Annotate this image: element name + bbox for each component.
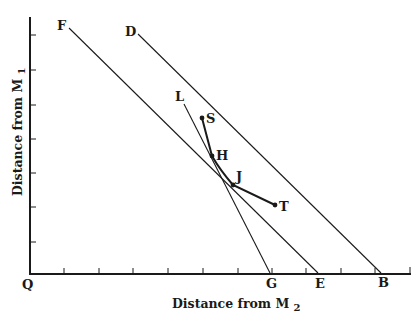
x-axis-ticks [64,267,410,274]
label-q: Q [22,277,33,292]
y-axis-label: Distance from M [10,79,25,196]
label-d: D [125,24,136,39]
point-s [200,116,205,121]
label-j: J [235,169,242,184]
point-t [273,203,278,208]
label-b: B [378,275,389,290]
line-lg [184,104,270,273]
label-t: T [279,199,289,214]
svg-text:Distance from M 2: Distance from M 2 [172,296,301,313]
isodapane-diagram: F D L S H J T G E B Q Distance from M 2 … [0,0,418,318]
line-db [138,34,381,273]
point-labels: F D L S H J T G E B Q [22,18,389,292]
label-f: F [57,18,67,33]
label-g: G [266,276,277,291]
x-axis-label-subscript: 2 [294,302,301,313]
label-s: S [206,111,215,126]
point-j [231,183,236,188]
label-h: H [216,148,228,163]
axes [29,17,411,275]
y-axis-label-subscript: 1 [16,67,27,74]
point-h [210,154,215,159]
x-axis-label: Distance from M [172,296,289,311]
line-fe [69,28,318,273]
label-e: E [315,276,325,291]
x-axis-title: Distance from M 2 [172,296,301,313]
svg-text:Distance from M 1: Distance from M 1 [10,67,27,196]
y-axis-title: Distance from M 1 [10,67,27,196]
label-l: L [175,89,184,104]
curve-shjt [200,116,278,208]
